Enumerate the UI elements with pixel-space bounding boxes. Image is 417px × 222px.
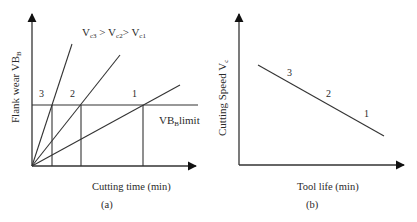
figure-a: 3 2 1 Vc3 > Vc2> Vc1 VBBlimit Flank wear… <box>9 14 200 211</box>
y-axis-label-a: Flank wear VBB <box>9 51 23 123</box>
caption-a: (a) <box>101 199 113 211</box>
point-label-3: 3 <box>287 67 292 78</box>
figure-b: 3 2 1 Cutting Speed Vc Tool life (min) (… <box>216 14 404 211</box>
caption-b: (b) <box>306 199 319 211</box>
speed-relation: Vc3 > Vc2> Vc1 <box>82 26 146 40</box>
line-label-3: 3 <box>39 88 44 99</box>
x-axis-label-a: Cutting time (min) <box>92 181 171 193</box>
point-label-1: 1 <box>364 108 369 119</box>
wear-line-2 <box>32 55 120 166</box>
line-label-2: 2 <box>70 88 75 99</box>
x-axis-label-b: Tool life (min) <box>297 181 359 193</box>
y-axis-label-b: Cutting Speed Vc <box>216 60 230 136</box>
speed-life-line <box>258 65 384 136</box>
line-label-1: 1 <box>132 88 137 99</box>
point-label-2: 2 <box>326 88 331 99</box>
vb-limit-label: VBBlimit <box>159 114 200 128</box>
figure-canvas: 3 2 1 Vc3 > Vc2> Vc1 VBBlimit Flank wear… <box>0 0 417 222</box>
